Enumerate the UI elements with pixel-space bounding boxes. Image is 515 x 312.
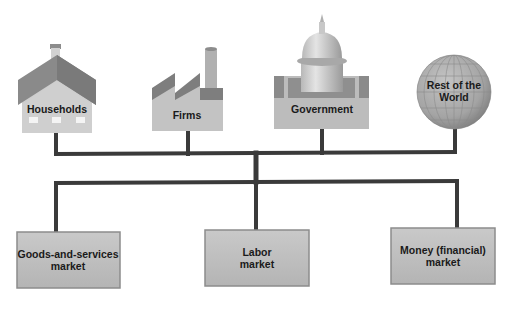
government-node[interactable]: Government	[274, 14, 369, 129]
goods-market-label-line2: market	[51, 260, 86, 272]
firms-label: Firms	[173, 109, 202, 121]
goods-market-label-line1: Goods-and-services	[18, 248, 119, 260]
money-market-label-line1: Money (financial)	[400, 244, 486, 256]
market-goods-and-services[interactable]: Goods-and-services market	[17, 232, 120, 288]
house-icon	[18, 44, 96, 133]
economy-diagram: Households Firms Government	[0, 0, 515, 312]
rest-of-world-node[interactable]: Rest of the World	[417, 55, 491, 129]
money-market-label-line2: market	[426, 256, 461, 268]
government-label: Government	[291, 103, 353, 115]
market-money-financial[interactable]: Money (financial) market	[391, 228, 495, 284]
households-node[interactable]: Households	[18, 44, 96, 133]
labor-market-label-line2: market	[240, 258, 275, 270]
firms-node[interactable]: Firms	[152, 47, 223, 131]
world-label-line1: Rest of the	[427, 79, 481, 91]
labor-market-label-line1: Labor	[242, 246, 271, 258]
market-labor[interactable]: Labor market	[205, 230, 309, 286]
households-label: Households	[27, 103, 87, 115]
connector-lines	[56, 129, 457, 233]
world-label-line2: World	[439, 91, 469, 103]
